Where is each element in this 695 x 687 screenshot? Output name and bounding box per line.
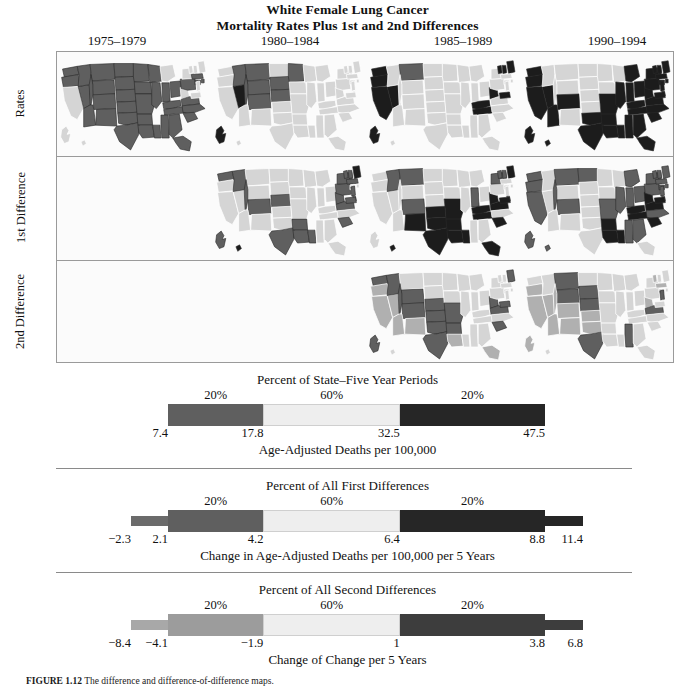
state-md	[654, 92, 665, 98]
state-ga	[169, 114, 182, 138]
state-mi	[469, 169, 485, 186]
state-nj	[350, 186, 355, 196]
legend-tick-first-difference-6: 11.4	[0, 532, 583, 547]
state-az	[547, 105, 559, 127]
map-row-rates	[57, 52, 673, 156]
state-mt	[245, 64, 270, 81]
row-label-second-difference-text: 2nd Difference	[14, 273, 29, 348]
state-md	[345, 197, 356, 203]
state-nm	[405, 318, 426, 335]
state-az	[547, 314, 559, 336]
state-wy	[246, 185, 269, 200]
state-ar	[601, 114, 617, 125]
legend-bar-segment-second-difference-1	[168, 614, 263, 636]
state-vt	[343, 65, 348, 73]
state-md	[654, 197, 665, 203]
state-mt	[245, 169, 270, 186]
state-vt	[498, 65, 503, 73]
column-headers: 1975–19791980–19841985–19891990–1994	[55, 33, 675, 50]
state-in	[316, 83, 324, 102]
map-rates-1985–1989	[366, 52, 521, 156]
state-nd	[423, 64, 443, 78]
state-vt	[652, 170, 657, 178]
state-mi	[315, 169, 331, 186]
state-vt	[498, 274, 503, 282]
map-1st-difference-1980–1984	[212, 157, 367, 261]
state-ga	[324, 219, 337, 243]
state-nh	[348, 65, 353, 73]
legend-divider-1	[56, 468, 632, 469]
legend-percent-second-difference-3: 20%	[461, 598, 484, 613]
state-il	[615, 291, 625, 318]
state-nm	[250, 214, 271, 231]
state-ga	[478, 114, 491, 138]
state-sd	[578, 285, 598, 299]
state-in	[316, 188, 324, 207]
state-in	[625, 292, 633, 311]
state-tx	[269, 227, 295, 255]
state-nd	[578, 169, 598, 183]
state-me	[661, 270, 669, 283]
state-nj	[505, 186, 510, 196]
state-ms	[307, 125, 315, 138]
state-hi	[81, 140, 87, 146]
state-md	[190, 92, 201, 98]
state-hi	[544, 140, 550, 146]
state-ar	[601, 219, 617, 230]
state-ma	[500, 179, 512, 185]
state-ak	[215, 231, 225, 248]
state-il	[615, 187, 625, 214]
state-sd	[424, 76, 444, 90]
state-co	[247, 199, 270, 215]
state-wy	[555, 185, 578, 200]
legend-percent-second-difference-2: 60%	[320, 598, 343, 613]
state-pa	[489, 183, 505, 195]
state-fl	[636, 241, 654, 256]
state-vt	[189, 65, 194, 73]
state-ks	[117, 101, 137, 113]
state-ri	[356, 79, 359, 83]
state-la	[447, 334, 464, 347]
legend-percent-rates-1: 20%	[204, 388, 227, 403]
legend-bar-tail-right-second-difference	[543, 620, 583, 630]
caption-label: FIGURE 1.12	[26, 676, 82, 686]
state-mn	[442, 169, 458, 187]
state-nj	[196, 81, 201, 91]
state-ks	[580, 310, 600, 322]
legend-percent-rates-2: 60%	[320, 388, 343, 403]
legend-percent-rates-3: 20%	[461, 388, 484, 403]
state-hi	[390, 245, 396, 251]
state-ri	[665, 184, 668, 188]
state-pa	[335, 183, 351, 195]
state-fl	[482, 345, 500, 360]
state-mi	[469, 64, 485, 81]
state-mn	[597, 169, 613, 187]
state-ri	[665, 79, 668, 83]
state-tx	[423, 122, 449, 150]
legend-percent-first-difference-3: 20%	[461, 494, 484, 509]
map-1st-difference-1990–1994	[521, 157, 676, 261]
legend-tick-rates-4: 47.5	[0, 426, 545, 441]
state-ma	[655, 179, 667, 185]
state-vt	[652, 274, 657, 282]
state-il	[306, 187, 316, 214]
legend-percents-rates: 20%60%20%	[0, 388, 695, 404]
state-wy	[92, 80, 115, 95]
state-la	[138, 125, 155, 138]
state-la	[292, 125, 309, 138]
state-nm	[559, 214, 580, 231]
state-ar	[292, 114, 308, 125]
state-al	[624, 115, 632, 138]
state-la	[292, 230, 309, 243]
legend-bar-rates	[0, 404, 695, 426]
state-sc	[492, 321, 507, 331]
state-me	[661, 166, 669, 179]
state-ga	[633, 219, 646, 243]
state-wi	[612, 64, 626, 82]
state-wi	[612, 169, 626, 187]
legend-bar-segment-first-difference-1	[168, 510, 263, 532]
map-rates-1975–1979	[57, 52, 212, 156]
state-ms	[462, 334, 470, 347]
state-wy	[401, 185, 424, 200]
state-ne	[425, 89, 445, 102]
